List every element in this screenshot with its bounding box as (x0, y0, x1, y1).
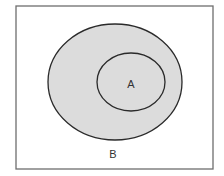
venn-diagram: A B (0, 0, 224, 176)
set-b-ellipse (48, 24, 182, 140)
set-a-label: A (127, 78, 135, 90)
set-b-label: B (109, 148, 116, 160)
